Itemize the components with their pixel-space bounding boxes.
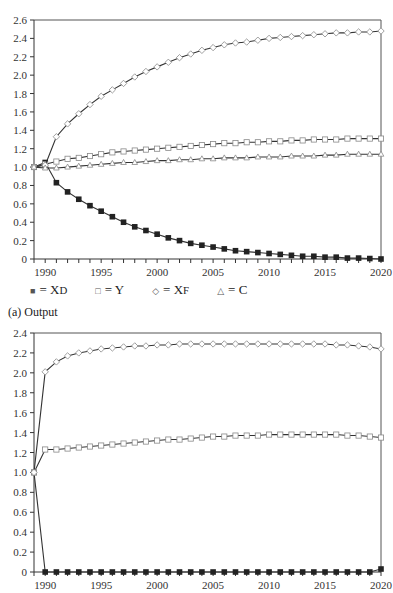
svg-text:2005: 2005 (202, 579, 225, 591)
svg-text:1.4: 1.4 (13, 427, 27, 439)
svg-text:2.2: 2.2 (13, 51, 27, 63)
svg-text:2.0: 2.0 (13, 367, 27, 379)
svg-text:0: 0 (22, 566, 28, 578)
svg-text:2000: 2000 (146, 579, 169, 591)
chart-1: 00.20.40.60.81.01.21.41.61.82.02.22.42.6… (13, 14, 392, 278)
series-x-d (34, 472, 381, 572)
svg-text:1995: 1995 (90, 266, 113, 278)
svg-text:0.4: 0.4 (13, 526, 27, 538)
svg-text:1.6: 1.6 (13, 106, 27, 118)
series-x-f (34, 344, 381, 472)
svg-text:2015: 2015 (314, 266, 337, 278)
svg-text:1.8: 1.8 (13, 387, 27, 399)
svg-text:1.4: 1.4 (13, 124, 27, 136)
svg-text:2.4: 2.4 (13, 32, 27, 44)
svg-text:2000: 2000 (146, 266, 169, 278)
svg-text:0.6: 0.6 (13, 198, 27, 210)
svg-text:1.2: 1.2 (13, 143, 27, 155)
filled-square-icon: ■ (30, 286, 35, 296)
legend-item-y: □ = Y (95, 282, 124, 298)
svg-text:2020: 2020 (370, 579, 393, 591)
svg-text:2010: 2010 (258, 266, 281, 278)
series-y (34, 435, 381, 473)
legend: ■ = XD □ = Y ◇ = XF △ = C (30, 282, 275, 298)
svg-text:1.8: 1.8 (13, 88, 27, 100)
svg-text:2.2: 2.2 (13, 347, 27, 359)
svg-text:1.6: 1.6 (13, 407, 27, 419)
series-x-f (34, 31, 381, 167)
svg-text:2.4: 2.4 (13, 327, 27, 339)
svg-text:0.2: 0.2 (13, 546, 27, 558)
svg-text:0.2: 0.2 (13, 235, 27, 247)
open-diamond-icon: ◇ (152, 286, 159, 296)
svg-text:0.6: 0.6 (13, 506, 27, 518)
chart-caption: (a) Output (8, 305, 58, 320)
svg-text:2.0: 2.0 (13, 69, 27, 81)
svg-text:2010: 2010 (258, 579, 281, 591)
open-square-icon: □ (95, 286, 100, 296)
svg-text:1995: 1995 (90, 579, 113, 591)
legend-item-c: △ = C (217, 282, 247, 298)
svg-text:1990: 1990 (34, 266, 57, 278)
svg-text:2015: 2015 (314, 579, 337, 591)
svg-text:1990: 1990 (34, 579, 57, 591)
svg-text:0.8: 0.8 (13, 179, 27, 191)
svg-text:0: 0 (22, 253, 28, 265)
svg-text:2.6: 2.6 (13, 14, 27, 26)
svg-text:2020: 2020 (370, 266, 393, 278)
svg-text:2005: 2005 (202, 266, 225, 278)
legend-item-xf: ◇ = XF (152, 282, 189, 298)
chart-2: 00.20.40.60.81.01.21.41.61.82.02.22.4199… (13, 327, 392, 591)
series-x-d (34, 162, 381, 259)
svg-text:0.4: 0.4 (13, 216, 27, 228)
svg-text:0.8: 0.8 (13, 486, 27, 498)
series-y (34, 139, 381, 167)
open-triangle-icon: △ (217, 286, 224, 296)
svg-text:1.2: 1.2 (13, 447, 27, 459)
legend-item-xd: ■ = XD (30, 282, 67, 298)
svg-text:1.0: 1.0 (13, 466, 27, 478)
svg-text:1.0: 1.0 (13, 161, 27, 173)
